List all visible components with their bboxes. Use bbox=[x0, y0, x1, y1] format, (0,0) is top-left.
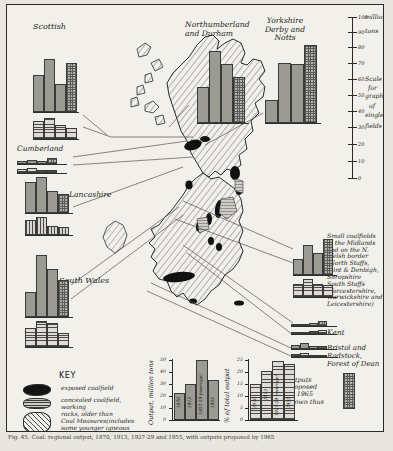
bar-label-1913: 1913 bbox=[187, 397, 192, 408]
bar-proposed bbox=[58, 194, 69, 213]
bar-label-1927-29: 1927-29 (average) bbox=[198, 374, 203, 415]
figure-frame: Scottish Cumberland Lancashire bbox=[6, 4, 384, 432]
bar bbox=[58, 227, 69, 235]
bar bbox=[323, 285, 333, 297]
region-bars-lancashire bbox=[25, 177, 69, 213]
key-title: KEY bbox=[59, 371, 76, 380]
region-label-cumberland: Cumberland bbox=[17, 145, 63, 153]
ytick-25: 25 bbox=[237, 357, 243, 362]
bar-label-1927-29: 1927-29 (average) bbox=[274, 375, 279, 416]
scale-axis bbox=[352, 17, 353, 179]
bar bbox=[44, 59, 55, 112]
bar bbox=[303, 279, 313, 297]
baseline bbox=[25, 347, 73, 348]
bar bbox=[33, 75, 44, 112]
bar bbox=[47, 191, 58, 213]
chart-percent-total-output: % of total output 0 5 10 15 20 25 1870 1… bbox=[223, 357, 303, 429]
bar bbox=[209, 51, 221, 123]
baseline bbox=[25, 213, 73, 214]
bar bbox=[44, 118, 55, 139]
bar bbox=[25, 328, 36, 347]
figure-caption: Fig. 45. Coal: regional output, 1870, 19… bbox=[8, 434, 386, 441]
region-label-yorkshire-derby-notts: Yorkshire Derby and Notts bbox=[265, 17, 305, 43]
key-label-concealed: concealed coalfield, working bbox=[61, 397, 121, 411]
baseline bbox=[291, 349, 337, 350]
bar bbox=[293, 259, 303, 275]
ytick-0: 0 bbox=[240, 417, 243, 422]
region-bars-south-wales-alt bbox=[25, 321, 69, 347]
key-legend: KEY exposed coalfield concealed coalfiel… bbox=[21, 371, 146, 432]
bar bbox=[33, 121, 44, 139]
region-bars-south-wales bbox=[25, 255, 69, 317]
baseline bbox=[291, 326, 337, 327]
single-field-scale: 100 90 80 70 60 50 40 30 20 10 0 million… bbox=[344, 13, 384, 185]
concealed-coalfield-swatch bbox=[23, 398, 51, 409]
ytick-15: 15 bbox=[237, 381, 243, 386]
scale-tick-0: 0 bbox=[358, 175, 361, 181]
bar-proposed bbox=[66, 63, 77, 112]
bar-proposed bbox=[58, 280, 69, 317]
bar-label-1955: 1955 bbox=[286, 397, 291, 408]
bar bbox=[58, 333, 69, 347]
bar bbox=[278, 63, 291, 123]
baseline bbox=[17, 173, 67, 174]
baseline bbox=[293, 275, 337, 276]
chart-percent-ylabel: % of total output bbox=[223, 361, 231, 423]
scale-unit-tons: tons bbox=[365, 28, 378, 35]
region-bars-lancashire-alt bbox=[25, 217, 69, 235]
bar bbox=[291, 64, 304, 123]
scale-tick-20: 20 bbox=[358, 141, 364, 147]
bar bbox=[55, 125, 66, 139]
scale-tick-40: 40 bbox=[358, 108, 364, 114]
bar bbox=[36, 255, 47, 317]
ytick-50: 50 bbox=[160, 357, 166, 362]
ytick-5: 5 bbox=[240, 405, 243, 410]
scale-tick-50: 50 bbox=[358, 92, 364, 98]
scale-tick-70: 70 bbox=[358, 60, 364, 66]
bar bbox=[47, 226, 58, 235]
scale-unit-million: million bbox=[365, 14, 384, 21]
bar bbox=[197, 87, 209, 123]
bar-label-1870: 1870 bbox=[252, 397, 257, 408]
scale-tick-10: 10 bbox=[358, 158, 364, 164]
bar bbox=[55, 84, 66, 112]
baseline bbox=[197, 123, 249, 124]
bar bbox=[313, 284, 323, 297]
region-label-lancashire: Lancashire bbox=[69, 191, 112, 200]
baseline bbox=[33, 112, 79, 113]
scale-tick-60: 60 bbox=[358, 76, 364, 82]
ytick-30: 30 bbox=[160, 381, 166, 386]
baseline bbox=[25, 235, 73, 236]
bar-label-1870: 1870 bbox=[176, 397, 181, 408]
scale-caption-line-5: single bbox=[365, 112, 384, 119]
region-bars-northumberland-durham bbox=[197, 51, 245, 123]
region-bars-small-coalfields-alt bbox=[293, 279, 333, 297]
scale-tick-80: 80 bbox=[358, 44, 364, 50]
bar bbox=[36, 177, 47, 213]
bar-label-1913: 1913 bbox=[263, 389, 268, 400]
ytick-20: 20 bbox=[237, 369, 243, 374]
region-label-northumberland-durham: Northumberland and Durham bbox=[185, 21, 250, 38]
bar bbox=[66, 128, 77, 139]
scale-caption-line-1: Scale bbox=[365, 76, 382, 83]
bar-proposed bbox=[323, 239, 333, 275]
bar bbox=[313, 253, 323, 275]
bar-proposed bbox=[233, 77, 245, 123]
ytick-0: 0 bbox=[163, 417, 166, 422]
baseline bbox=[25, 317, 73, 318]
y-axis bbox=[248, 359, 249, 421]
bar-label-1955: 1955 bbox=[210, 397, 215, 408]
bar bbox=[25, 292, 36, 317]
figure-page: Scottish Cumberland Lancashire bbox=[0, 0, 393, 451]
region-bars-scottish bbox=[33, 38, 77, 112]
bar bbox=[25, 182, 36, 213]
bar bbox=[303, 245, 313, 275]
ytick-10: 10 bbox=[160, 405, 166, 410]
region-label-scottish: Scottish bbox=[33, 23, 66, 32]
key-label-exposed: exposed coalfield bbox=[61, 385, 114, 392]
region-bars-small-coalfields bbox=[293, 239, 333, 275]
bar bbox=[284, 364, 295, 420]
scale-caption-line-6: fields bbox=[365, 123, 382, 130]
exposed-coalfield-swatch bbox=[23, 384, 51, 396]
bar bbox=[25, 220, 36, 235]
